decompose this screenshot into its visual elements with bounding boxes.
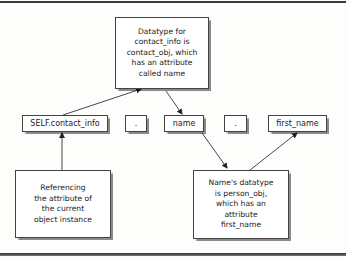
- token-label: .: [135, 119, 138, 129]
- annotation-text: Referencing the attribute of the current…: [34, 183, 92, 225]
- annotation-name-datatype: Name's datatype is person_obj, which has…: [193, 170, 289, 239]
- bottom-rule: [0, 253, 346, 256]
- token-self-contact-info: SELF.contact_info: [22, 115, 108, 132]
- annotation-text: Name's datatype is person_obj, which has…: [209, 178, 274, 231]
- token-dot-2: .: [224, 115, 247, 132]
- token-label: first_name: [276, 119, 318, 129]
- token-label: .: [234, 119, 237, 129]
- token-label: name: [173, 119, 196, 129]
- annotation-text: Datatype for contact_info is contact_obj…: [127, 27, 198, 80]
- annotation-current-object-reference: Referencing the attribute of the current…: [15, 170, 111, 238]
- annotation-contact-info-datatype: Datatype for contact_info is contact_obj…: [115, 17, 209, 89]
- arrow-self-to-top-note: [63, 89, 141, 115]
- arrow-right-note-to-first-name: [250, 133, 297, 170]
- arrow-top-note-to-name: [166, 91, 182, 114]
- token-name: name: [164, 115, 204, 132]
- token-label: SELF.contact_info: [30, 119, 99, 129]
- token-first-name: first_name: [268, 115, 327, 132]
- token-dot-1: .: [125, 115, 147, 132]
- arrow-name-to-right-note: [202, 133, 227, 168]
